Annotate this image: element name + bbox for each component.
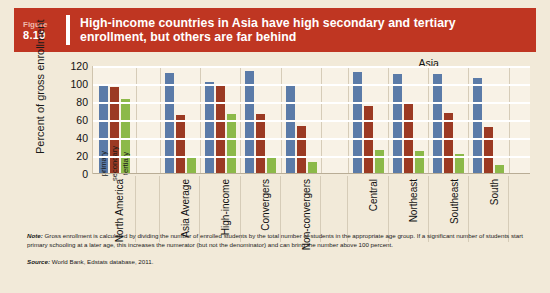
bar-secondary-convergers[interactable] xyxy=(256,114,265,174)
x-tick-label: Southeast xyxy=(449,179,460,224)
bar-tertiary-asia-average[interactable] xyxy=(187,156,196,174)
chart-area: Percent of gross enrollment 120100806040… xyxy=(14,58,536,226)
y-axis-label: Percent of gross enrollment xyxy=(34,34,46,154)
bar-primary-non-convergers[interactable] xyxy=(286,84,295,174)
y-tick-label: 20 xyxy=(76,150,88,162)
bar-secondary-high-income[interactable] xyxy=(216,84,225,174)
bar-tertiary-north-america[interactable]: tertiary xyxy=(121,99,130,174)
plot-region: Asia primarysecondarytertiary xyxy=(92,66,530,174)
y-tick-label: 80 xyxy=(76,96,88,108)
figure-note: Note: Gross enrollment is calculated by … xyxy=(27,231,523,250)
gridline xyxy=(93,138,530,140)
gridline xyxy=(93,120,530,122)
figure-title: High-income countries in Asia have high … xyxy=(80,16,510,45)
note-text: Gross enrollment is calculated by dividi… xyxy=(27,232,523,248)
figure-panel: Figure 8.10 High-income countries in Asi… xyxy=(0,0,550,293)
x-tick-label: Central xyxy=(368,179,379,211)
bar-secondary-southeast[interactable] xyxy=(444,113,453,174)
y-tick-label: 0 xyxy=(82,168,88,180)
x-tick-label: Convergers xyxy=(260,179,271,231)
figure-source: Source: World Bank, Edstats database, 20… xyxy=(27,258,523,265)
y-tick-label: 120 xyxy=(70,60,88,72)
header-divider xyxy=(66,15,70,45)
y-axis-ticks: 120100806040200 xyxy=(60,66,88,174)
bar-secondary-north-america[interactable]: secondary xyxy=(110,87,119,174)
x-tick-label: High-income xyxy=(220,179,231,235)
bar-primary-convergers[interactable] xyxy=(245,71,254,174)
source-label: Source: xyxy=(27,258,50,265)
source-text: World Bank, Edstats database, 2011. xyxy=(50,258,153,265)
bar-primary-central[interactable] xyxy=(353,72,362,174)
bar-tertiary-convergers[interactable] xyxy=(267,158,276,174)
figure-header: Figure 8.10 High-income countries in Asi… xyxy=(14,8,536,52)
bar-primary-northeast[interactable] xyxy=(393,74,402,174)
bar-secondary-non-convergers[interactable] xyxy=(297,126,306,174)
bar-secondary-asia-average[interactable] xyxy=(176,115,185,174)
y-tick-label: 60 xyxy=(76,114,88,126)
bar-primary-high-income[interactable] xyxy=(205,82,214,174)
bar-tertiary-northeast[interactable] xyxy=(415,151,424,174)
bar-primary-southeast[interactable] xyxy=(433,74,442,174)
bar-secondary-central[interactable] xyxy=(364,106,373,174)
y-tick-label: 40 xyxy=(76,132,88,144)
bar-primary-asia-average[interactable] xyxy=(165,73,174,174)
x-tick-label: Asia Average xyxy=(180,179,191,238)
bar-secondary-south[interactable] xyxy=(484,127,493,174)
bar-primary-north-america[interactable]: primary xyxy=(99,84,108,174)
x-tick-label: Northeast xyxy=(408,179,419,222)
bar-tertiary-high-income[interactable] xyxy=(227,114,236,174)
bar-tertiary-central[interactable] xyxy=(375,150,384,174)
gridline xyxy=(93,66,530,68)
axis-baseline xyxy=(93,173,530,174)
y-tick-label: 100 xyxy=(70,78,88,90)
x-tick-label: South xyxy=(489,179,500,205)
gridline xyxy=(93,84,530,86)
bar-primary-south[interactable] xyxy=(473,78,482,174)
gridline xyxy=(93,102,530,104)
note-label: Note: xyxy=(27,232,43,239)
gridline xyxy=(93,156,530,158)
